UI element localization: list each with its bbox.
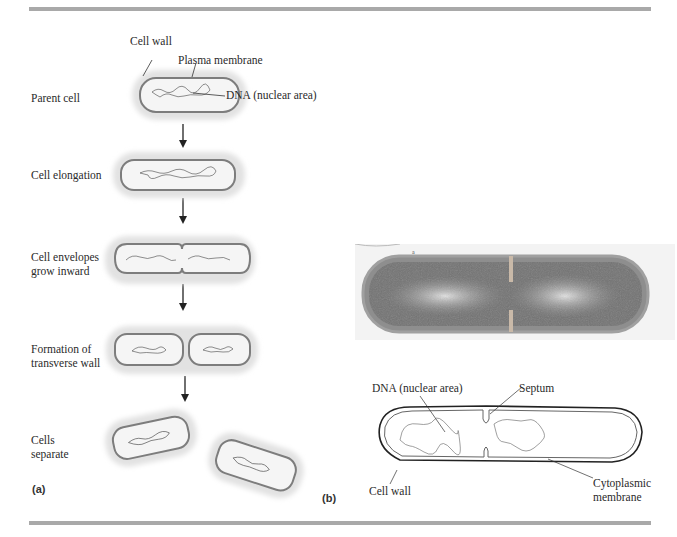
stage-label-parent-cell: Parent cell [31,91,80,105]
dna-annotation: DNA (nuclear area) [226,88,317,102]
panel-a-label: (a) [32,483,45,495]
panel-b-label: (b) [322,492,336,504]
stage-label-envelopes-grow-inward: Cell envelopes grow inward [31,250,99,278]
dna-nuclear-area-annotation: DNA (nuclear area) [372,381,463,395]
septum-annotation: Septum [519,381,554,395]
cell-wall-annotation: Cell wall [130,34,172,48]
stage-label-transverse-wall: Formation of transverse wall [31,342,100,370]
cell-wall-annotation-b: Cell wall [369,484,411,498]
stage-label-cells-separate: Cells separate [31,433,69,461]
stage-label-cell-elongation: Cell elongation [31,168,102,182]
cell-section-diagram [379,387,642,484]
cytoplasmic-membrane-annotation: Cytoplasmic membrane [593,476,651,504]
plasma-membrane-annotation: Plasma membrane [178,53,263,67]
panel-b-drawing [0,0,677,537]
